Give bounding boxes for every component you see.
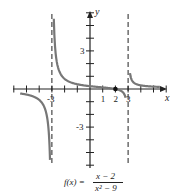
formula-numerator: x − 2	[96, 171, 115, 181]
marked-points	[113, 87, 118, 92]
y-axis-label: y	[94, 6, 100, 17]
formula-lhs: f(x) =	[64, 177, 85, 187]
x-intercept-point	[113, 87, 118, 92]
axes	[13, 11, 167, 168]
y-axis-arrow-icon	[87, 11, 93, 18]
curve-branch	[20, 93, 50, 159]
formula-denominator: x² − 9	[95, 183, 117, 193]
y-tick-label: -3	[76, 122, 84, 132]
curve-branch	[130, 73, 160, 87]
x-tick-label: -3	[47, 94, 55, 104]
x-tick-label: 2	[113, 94, 118, 104]
function-formula: f(x) = x − 2 x² − 9	[60, 170, 140, 196]
x-axis-label: x	[164, 92, 170, 103]
y-tick-label: 3	[80, 46, 85, 56]
function-plot: -31233-3 y x	[0, 0, 176, 172]
x-tick-label: 3	[126, 94, 131, 104]
x-tick-label: 1	[101, 94, 106, 104]
